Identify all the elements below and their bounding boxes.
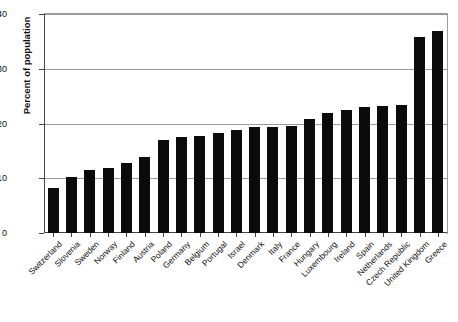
x-axis-tick-label: Czech Republic xyxy=(364,239,413,288)
bar xyxy=(414,37,425,233)
bar xyxy=(341,110,352,233)
x-axis-tick xyxy=(438,233,439,237)
x-axis-tick xyxy=(71,233,72,237)
y-axis-tick-label: 0 xyxy=(0,228,7,238)
x-axis-tick xyxy=(383,233,384,237)
bar xyxy=(396,105,407,233)
bar xyxy=(84,170,95,233)
x-axis-tick-label: Norway xyxy=(92,239,119,266)
y-axis-tick-label: 10 xyxy=(0,173,7,183)
bar xyxy=(158,140,169,233)
bar xyxy=(286,126,297,233)
x-axis-tick xyxy=(108,233,109,237)
bar xyxy=(322,113,333,233)
x-axis-tick xyxy=(291,233,292,237)
x-axis-tick xyxy=(273,233,274,237)
x-axis-tick-label: Switzerland xyxy=(27,239,65,277)
x-axis-tick xyxy=(346,233,347,237)
y-axis-tick-label: 30 xyxy=(0,64,7,74)
x-axis-tick xyxy=(218,233,219,237)
x-axis-tick xyxy=(200,233,201,237)
x-axis-tick-label: Israel xyxy=(226,239,248,261)
y-axis-tick-label: 40 xyxy=(0,9,7,19)
x-axis-tick-label: United Kingdom xyxy=(381,239,430,288)
x-axis-tick xyxy=(420,233,421,237)
bar xyxy=(194,136,205,233)
bar xyxy=(432,31,443,233)
bar-chart: Percent of population 010203040 Switzerl… xyxy=(0,0,458,322)
x-axis-tick xyxy=(181,233,182,237)
y-axis-title: Percent of population xyxy=(21,0,32,136)
x-axis-tick-label: Portugal xyxy=(200,239,229,268)
x-axis-tick-label: Italy xyxy=(266,239,284,257)
x-axis-tick xyxy=(163,233,164,237)
x-axis-tick-label: Germany xyxy=(161,239,192,270)
x-axis-tick xyxy=(236,233,237,237)
x-axis-tick-label: Greece xyxy=(422,239,448,265)
x-axis-tick xyxy=(365,233,366,237)
x-axis-tick xyxy=(90,233,91,237)
bar xyxy=(139,157,150,233)
y-axis-tick-label: 20 xyxy=(0,119,7,129)
bar xyxy=(176,137,187,233)
bar xyxy=(267,127,278,233)
x-axis-tick-label: Spain xyxy=(353,239,375,261)
x-axis-tick xyxy=(53,233,54,237)
x-axis-tick xyxy=(401,233,402,237)
x-axis-tick xyxy=(145,233,146,237)
x-axis-tick-label: Denmark xyxy=(235,239,266,270)
x-axis-tick xyxy=(310,233,311,237)
x-axis-tick-label: Poland xyxy=(149,239,175,265)
bar-series xyxy=(44,14,447,233)
x-axis-tick-label: Austria xyxy=(130,239,156,265)
x-axis-tick-label: Sweden xyxy=(72,239,100,267)
bar xyxy=(377,106,388,233)
x-axis-tick xyxy=(126,233,127,237)
x-axis-tick xyxy=(328,233,329,237)
x-axis-tick-label: France xyxy=(277,239,303,265)
y-axis-tick xyxy=(39,233,44,234)
x-axis-tick-label: Finland xyxy=(111,239,137,265)
bar xyxy=(121,163,132,233)
bar xyxy=(103,168,114,233)
x-axis-tick-label: Slovenia xyxy=(53,239,83,269)
bar xyxy=(359,107,370,233)
x-axis-tick-label: Belgium xyxy=(182,239,210,267)
bar xyxy=(304,119,315,233)
bar xyxy=(213,133,224,233)
x-axis-tick-label: Ireland xyxy=(332,239,357,264)
bar xyxy=(249,127,260,233)
x-axis-tick-label: Netherlands xyxy=(355,239,394,278)
bar xyxy=(231,130,242,233)
x-axis-tick xyxy=(255,233,256,237)
bar xyxy=(66,177,77,233)
bar xyxy=(48,188,59,233)
x-axis-tick-label: Hungary xyxy=(291,239,320,268)
x-axis-tick-label: Luxembourg xyxy=(299,239,339,279)
